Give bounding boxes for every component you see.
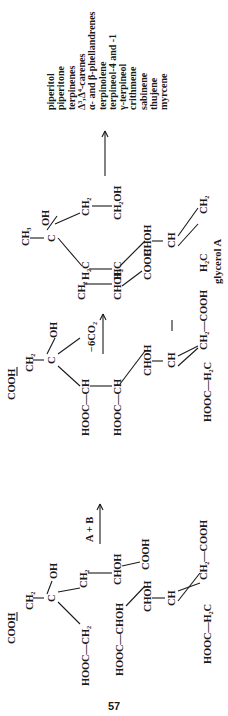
atom-label: H₂C bbox=[198, 254, 209, 272]
product-item: myrcene bbox=[159, 74, 169, 110]
product-item: α- and β-phellandrenes bbox=[87, 12, 97, 110]
atom-label: OH bbox=[40, 210, 51, 226]
rotated-diagram: COOH CH₂ C OH CH₂ HOOC—CH₂ CHOH COOH HOO… bbox=[0, 0, 228, 716]
atom-label: CH₂ bbox=[24, 354, 35, 372]
atom-label: COOH bbox=[140, 539, 151, 570]
atom-label: C bbox=[46, 357, 57, 364]
atom-label: HOOC—CH bbox=[80, 379, 91, 436]
atom-label: CH₂—COOH bbox=[198, 520, 209, 580]
atom-label: CHOH bbox=[142, 345, 153, 376]
atom-label: COOH bbox=[6, 613, 17, 644]
atom-label: C bbox=[46, 235, 57, 242]
atom-label: HOOC—H₂C bbox=[202, 604, 213, 664]
atom-label: H₂C bbox=[80, 262, 91, 280]
atom-label: HOOC—H₂C bbox=[202, 362, 213, 422]
reaction-label-a-plus-b: A + B bbox=[84, 517, 95, 542]
atom-label: CHOH bbox=[142, 225, 153, 256]
atom-label: C bbox=[46, 595, 57, 602]
atom-label: CH₂ bbox=[76, 282, 87, 300]
reaction-label-minus-6co2: −6CO₂ bbox=[86, 322, 97, 352]
atom-label: CH₂ bbox=[198, 196, 209, 214]
atom-label: CH₂OH bbox=[112, 186, 123, 220]
atom-label: HOOC—CH bbox=[112, 379, 123, 436]
atom-label: CH bbox=[166, 591, 177, 606]
atom-label: CH bbox=[166, 353, 177, 368]
atom-label: H₂C bbox=[112, 262, 123, 280]
atom-label: CH₂ bbox=[78, 570, 89, 588]
atom-label: CH₂ bbox=[24, 592, 35, 610]
atom-label: OH bbox=[48, 322, 59, 338]
atom-label: CH₂—COOH bbox=[198, 290, 209, 350]
atom-label: CH₃ bbox=[20, 228, 31, 246]
atom-label: HOOC—CHOH bbox=[114, 603, 125, 676]
atom-label: COOH bbox=[6, 369, 17, 400]
atom-label: CHOH bbox=[142, 581, 153, 612]
atom-label: HOOC—CH₂ bbox=[80, 626, 91, 686]
product-item: piperitone bbox=[56, 66, 66, 110]
product-label-glycerol-a: glycerol A bbox=[212, 239, 223, 284]
atom-label: CHOH bbox=[112, 554, 123, 585]
atom-label: CH bbox=[166, 233, 177, 248]
page-number: 57 bbox=[0, 700, 228, 712]
atom-label: CH₂ bbox=[80, 198, 91, 216]
atom-label: OH bbox=[48, 563, 59, 579]
